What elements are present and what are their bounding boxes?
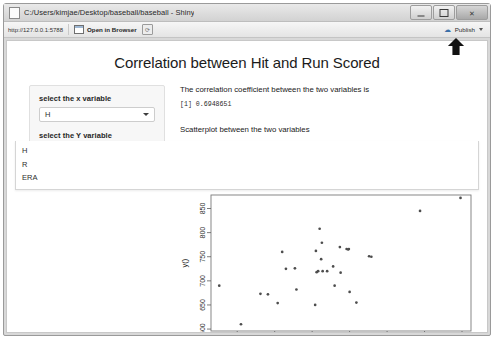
scatterplot-caption: Scatterplot between the two variables	[180, 125, 477, 134]
dropdown-option-1[interactable]: R	[16, 158, 478, 172]
window-title: C:/Users/kimjae/Desktop/baseball/basebal…	[24, 8, 194, 17]
app-window: C:/Users/kimjae/Desktop/baseball/basebal…	[3, 3, 491, 336]
browser-icon	[74, 25, 84, 34]
svg-text:y(): y()	[180, 258, 189, 267]
open-in-browser-label: Open in Browser	[87, 26, 137, 33]
toolbar-divider	[68, 24, 69, 35]
correlation-value: [1] 0.6948651	[180, 101, 477, 108]
close-icon: ✕	[469, 9, 475, 16]
svg-text:700: 700	[199, 275, 206, 287]
open-in-browser-button[interactable]: Open in Browser	[74, 25, 137, 34]
scatterplot-svg: 1300135014001450150015501600600650700750…	[179, 189, 479, 333]
maximize-button[interactable]	[433, 5, 455, 20]
dropdown-option-0[interactable]: H	[16, 144, 478, 158]
dropdown-option-2[interactable]: ERA	[16, 171, 478, 185]
window-titlebar[interactable]: C:/Users/kimjae/Desktop/baseball/basebal…	[4, 4, 490, 22]
window-controls: ✕	[410, 5, 488, 20]
svg-text:600: 600	[199, 323, 206, 333]
x-variable-label: select the x variable	[39, 94, 155, 103]
publish-label[interactable]: Publish	[455, 26, 475, 33]
svg-text:750: 750	[199, 251, 206, 263]
address-text[interactable]: http://127.0.0.1:5788	[8, 27, 63, 33]
y-variable-label: select the Y variable	[39, 131, 155, 140]
correlation-text: The correlation coefficient between the …	[180, 85, 477, 94]
shiny-app-page: Correlation between Hit and Run Scored s…	[6, 40, 488, 333]
refresh-icon[interactable]	[142, 24, 153, 35]
screenshot-root: C:/Users/kimjae/Desktop/baseball/basebal…	[0, 0, 497, 351]
chevron-down-icon	[143, 113, 149, 116]
svg-text:850: 850	[199, 203, 206, 215]
viewer-toolbar: http://127.0.0.1:5788 Open in Browser ☁ …	[4, 22, 490, 38]
minimize-button[interactable]	[410, 5, 432, 20]
svg-text:800: 800	[199, 227, 206, 239]
close-button[interactable]: ✕	[456, 5, 488, 20]
scatterplot: 1300135014001450150015501600600650700750…	[179, 189, 479, 333]
publish-icon: ☁	[444, 26, 451, 33]
svg-text:650: 650	[199, 299, 206, 311]
x-variable-value: H	[45, 110, 50, 119]
shiny-app-icon	[9, 7, 20, 19]
page-title: Correlation between Hit and Run Scored	[7, 41, 487, 71]
y-variable-dropdown-list[interactable]: H R ERA	[15, 141, 479, 190]
x-variable-select[interactable]: H	[39, 107, 155, 122]
publish-chevron-down-icon[interactable]	[479, 28, 483, 31]
toolbar-right-group: ☁ Publish	[444, 26, 486, 33]
